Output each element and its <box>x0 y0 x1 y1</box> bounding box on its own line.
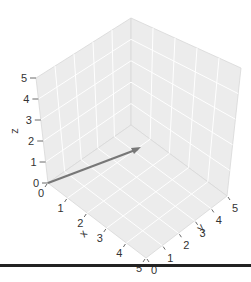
tick-label: 4 <box>116 247 122 259</box>
tick-label: 2 <box>183 239 189 251</box>
tick-label: 5 <box>21 72 27 84</box>
tick-label: 2 <box>28 135 34 147</box>
tick-label: 1 <box>30 156 36 168</box>
z-axis-label: z <box>8 128 20 134</box>
tick-label: 5 <box>232 202 238 214</box>
tick-label: 1 <box>167 252 173 264</box>
tick-label: 3 <box>97 232 103 244</box>
tick-label: 4 <box>216 214 222 226</box>
tick-label: 0 <box>38 187 44 199</box>
tick-label: 3 <box>26 114 32 126</box>
tick-label: 4 <box>23 93 29 105</box>
tick-label: 2 <box>77 217 83 229</box>
bottom-divider <box>0 264 251 267</box>
3d-plot: 000111222333444555 z x y <box>0 0 251 282</box>
tick-label: 1 <box>58 202 64 214</box>
